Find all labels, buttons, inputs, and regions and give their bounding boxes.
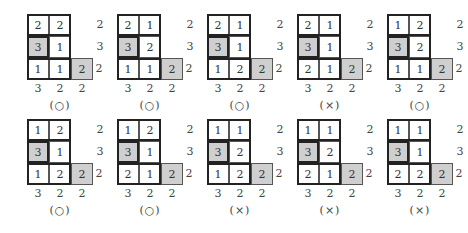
column-clue: 3	[297, 82, 319, 95]
grid-cell: 2	[139, 119, 161, 141]
grid-cell: 2	[409, 163, 431, 185]
number-grid: 2131122	[207, 14, 273, 80]
grid-cell: 1	[49, 58, 71, 80]
column-clue: 2	[431, 187, 453, 200]
column-clue: 2	[49, 82, 71, 95]
shaded-cell: 3	[297, 141, 319, 163]
row-clue: 3	[455, 40, 465, 53]
verdict-mark: (○)	[27, 204, 93, 217]
grid-cell: 1	[229, 119, 251, 141]
verdict-mark: (○)	[387, 99, 453, 112]
grid-panel-2: 2132112232322(○)	[117, 14, 207, 124]
grid-cell: 2	[49, 14, 71, 36]
number-grid: 1232112	[387, 14, 453, 80]
row-clue: 2	[275, 18, 285, 31]
row-clue: 2	[184, 62, 194, 75]
grid-cell: 1	[387, 119, 409, 141]
shaded-cell: 2	[431, 163, 453, 185]
shaded-cell: 3	[27, 141, 49, 163]
row-clue: 3	[95, 40, 105, 53]
grid-panel-8: 1132122232322(×)	[207, 119, 297, 229]
column-clue: 2	[409, 187, 431, 200]
grid-panel-6: 1231122232322(○)	[27, 119, 117, 229]
grid-panel-7: 1231212232322(○)	[117, 119, 207, 229]
grid-cell: 1	[117, 58, 139, 80]
column-clue: 2	[161, 187, 183, 200]
row-clue: 3	[365, 40, 375, 53]
number-grid: 1132122	[207, 119, 273, 185]
row-clue: 2	[95, 123, 105, 136]
row-clue: 2	[184, 167, 194, 180]
column-clue: 3	[27, 187, 49, 200]
verdict-mark: (×)	[297, 204, 363, 217]
grid-panel-4: 2131212232322(×)	[297, 14, 387, 124]
number-grid: 1231212	[117, 119, 183, 185]
grid-panel-9: 1132212232322(×)	[297, 119, 387, 229]
row-clue: 2	[274, 167, 284, 180]
column-clue: 2	[71, 82, 93, 95]
row-clue: 2	[185, 18, 195, 31]
column-clue: 3	[117, 187, 139, 200]
row-clue: 2	[455, 123, 465, 136]
number-grid: 2132112	[117, 14, 183, 80]
shaded-cell: 2	[341, 163, 363, 185]
grid-cell: 1	[409, 58, 431, 80]
column-clue: 3	[27, 82, 49, 95]
grid-cell: 2	[387, 163, 409, 185]
grid-cell: 1	[207, 119, 229, 141]
row-clue: 3	[185, 145, 195, 158]
number-grid: 1132212	[297, 119, 363, 185]
column-clue: 2	[49, 187, 71, 200]
column-clue: 2	[71, 187, 93, 200]
grid-cell: 2	[409, 14, 431, 36]
shaded-cell: 2	[341, 58, 363, 80]
grid-cell: 1	[207, 58, 229, 80]
grid-panel-10: 1131222232322(×)	[387, 119, 468, 229]
column-clue: 2	[319, 82, 341, 95]
verdict-mark: (×)	[207, 204, 273, 217]
row-clue: 2	[274, 62, 284, 75]
column-clue: 2	[139, 82, 161, 95]
shaded-cell: 3	[117, 141, 139, 163]
grid-cell: 1	[139, 14, 161, 36]
grid-cell: 2	[49, 119, 71, 141]
grid-panel-1: 2231112232322(○)	[27, 14, 117, 124]
grid-cell: 1	[297, 119, 319, 141]
row-clue: 2	[95, 18, 105, 31]
grid-cell: 1	[207, 163, 229, 185]
grid-cell: 2	[409, 36, 431, 58]
row-clue: 2	[365, 18, 375, 31]
grid-cell: 2	[319, 141, 341, 163]
shaded-cell: 2	[251, 58, 273, 80]
column-clue: 3	[207, 187, 229, 200]
row-clue: 2	[364, 62, 374, 75]
row-clue: 2	[365, 123, 375, 136]
grid-cell: 2	[139, 36, 161, 58]
shaded-cell: 2	[71, 58, 93, 80]
grid-cell: 2	[27, 14, 49, 36]
grid-cell: 2	[117, 14, 139, 36]
row-clue: 2	[275, 123, 285, 136]
row-clue: 2	[185, 123, 195, 136]
shaded-cell: 2	[161, 58, 183, 80]
grid-cell: 1	[139, 163, 161, 185]
verdict-mark: (×)	[297, 99, 363, 112]
column-clue: 2	[409, 82, 431, 95]
grid-cell: 1	[319, 14, 341, 36]
grid-cell: 1	[27, 119, 49, 141]
grid-cell: 1	[229, 36, 251, 58]
row-clue: 3	[95, 145, 105, 158]
column-clue: 3	[117, 82, 139, 95]
grid-cell: 1	[409, 141, 431, 163]
grid-cell: 1	[387, 58, 409, 80]
grid-panel-3: 2131122232322(○)	[207, 14, 297, 124]
grid-cell: 2	[297, 14, 319, 36]
grid-cell: 2	[207, 14, 229, 36]
grid-cell: 1	[229, 14, 251, 36]
shaded-cell: 3	[297, 36, 319, 58]
row-clue: 2	[94, 62, 104, 75]
row-clue: 3	[455, 145, 465, 158]
column-clue: 2	[229, 82, 251, 95]
verdict-mark: (×)	[387, 204, 453, 217]
grid-cell: 1	[117, 119, 139, 141]
